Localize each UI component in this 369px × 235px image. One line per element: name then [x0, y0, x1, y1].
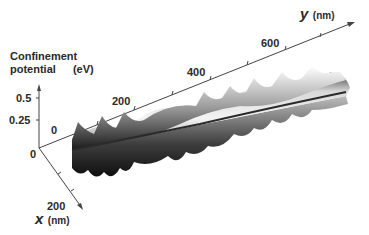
surface-plot: Confinement potential (eV) 0.5 0.25 0 0 …	[0, 0, 369, 235]
y-axis-unit: (nm)	[313, 10, 335, 21]
y-tick-400: 400	[187, 66, 205, 78]
z-axis	[36, 84, 41, 148]
x-axis-title: x (nm)	[35, 210, 69, 228]
potential-surface	[72, 66, 350, 177]
x-axis-name: x	[35, 210, 43, 227]
z-tick-0.25: 0.25	[9, 114, 30, 126]
x-axis-unit: (nm)	[48, 215, 70, 226]
z-tick-0: 0	[30, 148, 36, 160]
y-axis-name: y	[300, 5, 308, 22]
y-tick-600: 600	[261, 37, 279, 49]
z-axis-unit: (eV)	[73, 63, 94, 75]
z-axis-title-line2: potential	[10, 63, 56, 75]
z-axis-title: Confinement potential (eV)	[10, 50, 94, 76]
y-tick-0: 0	[51, 124, 57, 136]
y-axis-title: y (nm)	[300, 5, 334, 23]
z-axis-title-line2-row: potential (eV)	[10, 63, 94, 76]
z-axis-title-line1: Confinement	[10, 50, 94, 63]
y-tick-200: 200	[112, 95, 130, 107]
z-tick-0.5: 0.5	[16, 92, 31, 104]
